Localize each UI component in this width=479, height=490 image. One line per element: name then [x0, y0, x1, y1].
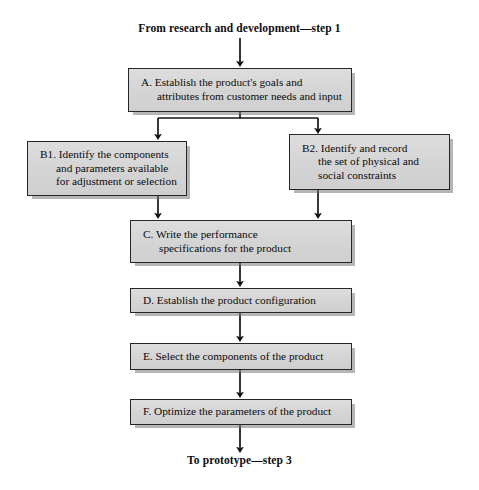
- process-box-a-text: A. Establish the product's goals and att…: [129, 76, 350, 103]
- process-box-c-text: C. Write the performance specifications …: [131, 228, 299, 255]
- exit-label: To prototype—step 3: [0, 454, 479, 466]
- box-b1-line-1: B1. Identify the components: [40, 148, 177, 162]
- flowchart-canvas: From research and development—step 1 A. …: [0, 0, 479, 490]
- box-f-line-1: F. Optimize the parameters of the produc…: [143, 405, 331, 419]
- box-b2-line-2: the set of physical and: [302, 155, 419, 169]
- process-box-f[interactable]: F. Optimize the parameters of the produc…: [130, 399, 352, 425]
- process-box-f-text: F. Optimize the parameters of the produc…: [131, 405, 339, 419]
- box-e-line-1: E. Select the components of the product: [143, 350, 323, 364]
- box-b1-line-3: for adjustment or selection: [40, 175, 177, 189]
- box-b1-line-2: and parameters available: [40, 162, 177, 176]
- process-box-d[interactable]: D. Establish the product configuration: [130, 288, 352, 313]
- box-c-line-1: C. Write the performance: [143, 228, 291, 242]
- process-box-b2-text: B2. Identify and record the set of physi…: [290, 142, 427, 183]
- process-box-b1-text: B1. Identify the components and paramete…: [28, 148, 185, 189]
- process-box-b1[interactable]: B1. Identify the components and paramete…: [27, 141, 187, 196]
- process-box-e-text: E. Select the components of the product: [131, 350, 331, 364]
- box-c-line-2: specifications for the product: [143, 242, 291, 256]
- process-box-b2[interactable]: B2. Identify and record the set of physi…: [289, 134, 450, 190]
- box-b2-line-3: social constraints: [302, 169, 419, 183]
- box-a-line-1: A. Establish the product's goals and: [141, 76, 342, 90]
- process-box-d-text: D. Establish the product configuration: [131, 294, 324, 308]
- process-box-e[interactable]: E. Select the components of the product: [130, 343, 352, 370]
- box-b2-line-1: B2. Identify and record: [302, 142, 419, 156]
- box-a-line-2: attributes from customer needs and input: [141, 90, 342, 104]
- entry-label: From research and development—step 1: [0, 22, 479, 34]
- cropped-caption-region: [0, 478, 479, 490]
- process-box-c[interactable]: C. Write the performance specifications …: [130, 220, 352, 263]
- process-box-a[interactable]: A. Establish the product's goals and att…: [128, 68, 352, 112]
- box-d-line-1: D. Establish the product configuration: [143, 294, 316, 308]
